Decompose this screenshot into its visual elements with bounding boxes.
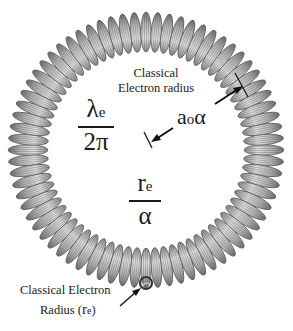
alpha-denominator: α <box>129 203 161 229</box>
two-pi-denominator: 2π <box>78 129 114 155</box>
bohr-alpha-label: aoα <box>177 104 206 130</box>
coil-loops <box>8 12 284 288</box>
small-loop-caption-line1: Classical Electron <box>20 283 111 298</box>
lambda-subscript: e <box>99 104 106 120</box>
small-loop-caption-line2: Radius (re) <box>40 301 96 318</box>
radius-prefix: Radius ( <box>40 303 82 317</box>
center-tick-icon <box>144 132 152 148</box>
electron-toroid-diagram: Classical Electron radius λe 2π aoα re α… <box>0 0 293 331</box>
compton-wavelength-fraction: λe 2π <box>78 96 114 155</box>
r-subscript: e <box>146 178 153 194</box>
coil-ring <box>0 0 293 331</box>
a-symbol: a <box>177 104 187 129</box>
lambda-symbol: λ <box>87 95 99 122</box>
re-over-alpha-fraction: re α <box>129 170 161 229</box>
radius-suffix: ) <box>91 303 95 317</box>
r-symbol: r <box>138 169 146 196</box>
alpha-symbol: α <box>194 104 206 129</box>
caption-line-2: Electron radius <box>118 81 194 95</box>
inner-radius-caption: Classical Electron radius <box>118 66 194 96</box>
caption-line-1: Classical <box>133 66 178 80</box>
